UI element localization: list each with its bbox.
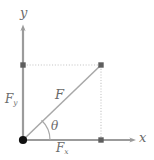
force-y-component-label: Fy xyxy=(5,93,18,107)
vector-diagram-figure: y x F Fy Fx θ xyxy=(0,0,154,160)
vector-diagram-canvas xyxy=(0,0,154,160)
marker-vector-tip xyxy=(98,62,103,67)
x-axis-label: x xyxy=(139,131,146,144)
force-vector-label: F xyxy=(55,88,64,101)
y-axis xyxy=(20,25,25,141)
angle-theta-label: θ xyxy=(51,120,58,132)
y-axis-label: y xyxy=(20,6,27,19)
x-axis xyxy=(23,137,137,142)
origin-point xyxy=(19,136,27,144)
force-x-component-label: Fx xyxy=(56,142,69,156)
force-y-subscript: y xyxy=(13,98,17,107)
force-x-subscript: x xyxy=(64,147,68,156)
marker-x-component xyxy=(98,137,103,142)
angle-arc xyxy=(42,120,51,140)
marker-y-component xyxy=(20,62,25,67)
force-vector-line xyxy=(24,66,101,140)
